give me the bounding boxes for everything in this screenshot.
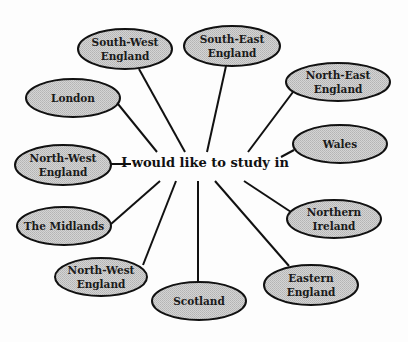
connector-london <box>118 104 157 152</box>
node-label: North-West <box>30 152 97 164</box>
node-south-east-england: South-EastEngland <box>184 26 280 66</box>
diagram-canvas: South-WestEnglandSouth-EastEnglandLondon… <box>0 0 408 342</box>
spider-diagram: South-WestEnglandSouth-EastEnglandLondon… <box>0 0 408 342</box>
node-label: London <box>51 92 95 104</box>
node-label: South-West <box>92 36 159 48</box>
node-label: England <box>314 83 363 95</box>
node-london: London <box>26 79 120 117</box>
connector-north-west-england-bottom <box>143 181 176 265</box>
node-ellipse <box>264 265 358 305</box>
connector-south-east-england <box>207 66 226 152</box>
node-label: England <box>77 278 126 290</box>
node-label: The Midlands <box>24 220 105 232</box>
node-north-west-england-left: North-WestEngland <box>15 145 111 185</box>
node-wales: Wales <box>293 125 387 163</box>
nodes: South-WestEnglandSouth-EastEnglandLondon… <box>15 26 390 320</box>
node-ellipse <box>78 29 172 69</box>
node-south-west-england: South-WestEngland <box>78 29 172 69</box>
node-ellipse <box>15 145 111 185</box>
node-label: Eastern <box>288 272 334 284</box>
node-label: England <box>39 166 88 178</box>
node-label: North-West <box>68 264 135 276</box>
node-north-west-england-bottom: North-WestEngland <box>55 258 147 296</box>
connector-lines <box>111 66 294 282</box>
node-eastern-england: EasternEngland <box>264 265 358 305</box>
node-label: Northern <box>307 206 362 218</box>
connector-the-midlands <box>111 181 160 224</box>
node-label: South-East <box>200 33 265 45</box>
connector-eastern-england <box>215 181 289 266</box>
node-label: England <box>208 47 257 59</box>
center-label: I would like to study in <box>121 155 289 170</box>
node-northern-ireland: NorthernIreland <box>287 200 381 238</box>
node-scotland: Scotland <box>152 282 246 320</box>
node-label: Wales <box>322 138 357 150</box>
node-label: North-East <box>306 69 371 81</box>
connector-northern-ireland <box>244 181 291 212</box>
node-label: Ireland <box>313 220 357 232</box>
node-ellipse <box>184 26 280 66</box>
node-label: Scotland <box>173 295 225 307</box>
node-label: England <box>101 50 150 62</box>
node-label: England <box>287 286 336 298</box>
node-the-midlands: The Midlands <box>17 207 111 245</box>
node-north-east-england: North-EastEngland <box>286 63 390 101</box>
connector-north-east-england <box>248 92 293 152</box>
